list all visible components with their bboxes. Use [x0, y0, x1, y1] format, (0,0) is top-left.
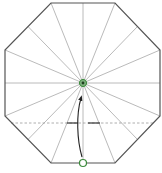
origami-diagram — [0, 0, 162, 173]
center-point-marker — [79, 79, 86, 86]
bottom-point-marker — [80, 160, 87, 167]
fold-arrow-icon — [78, 98, 82, 157]
